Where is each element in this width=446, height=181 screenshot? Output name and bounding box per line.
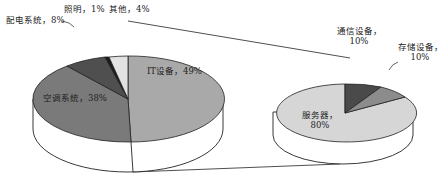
label-storage-pct: 10% [395,52,445,62]
label-power: 配电系统，8% [6,15,65,25]
label-communication-pct: 10% [334,36,384,46]
label-lighting: 照明，1% [64,4,105,14]
label-communication: 通信设备， 10% [334,26,384,46]
label-storage-name: 存储设备， [395,42,445,52]
connector-top [128,21,350,58]
label-server: 服务器， 80% [298,110,342,130]
label-ac: 空调系统，38% [43,93,107,103]
label-other: 其他，4% [109,4,150,14]
label-communication-name: 通信设备， [334,26,384,36]
label-server-name: 服务器， [298,110,342,120]
label-storage: 存储设备， 10% [395,42,445,62]
label-it: IT设备，49% [147,66,202,76]
secondary-pie [273,62,417,164]
label-server-pct: 80% [298,120,342,130]
